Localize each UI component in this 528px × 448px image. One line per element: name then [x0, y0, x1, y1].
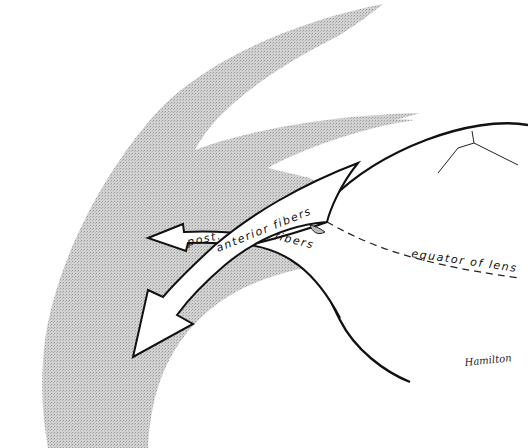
lens-suture [438, 131, 518, 173]
lens-fiber-diagram: post. anterior fibers fibers equator of … [0, 0, 528, 448]
ciliary-body-shading [42, 4, 420, 448]
label-equator-of-lens: equator of lens [411, 247, 519, 275]
artist-signature: Hamilton [463, 352, 512, 368]
diagram-canvas: post. anterior fibers fibers equator of … [0, 0, 528, 448]
